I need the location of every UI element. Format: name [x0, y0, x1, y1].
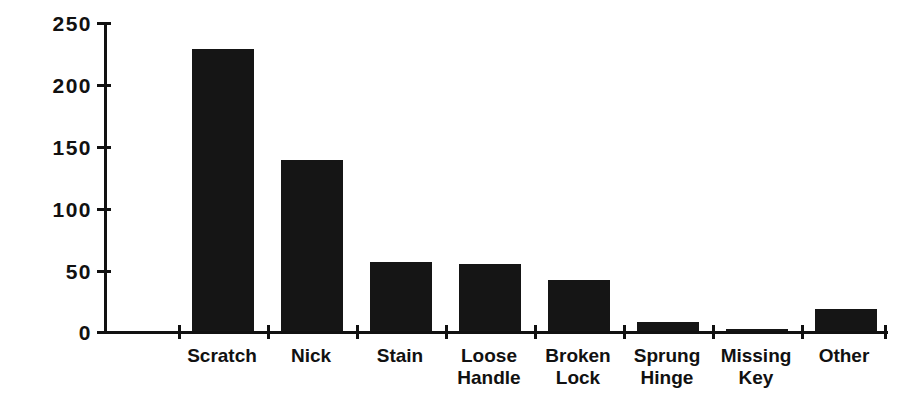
bar-other [815, 309, 877, 331]
bar-loose-handle [459, 264, 521, 331]
x-label-other: Other [785, 345, 903, 367]
bar-broken-lock [548, 280, 610, 331]
bar-scratch [192, 49, 254, 331]
bar-missing-key [726, 329, 788, 331]
bar-sprung-hinge [637, 322, 699, 331]
bar-chart: 250 200 150 100 50 0 Scratch Nick Stain … [0, 0, 914, 408]
bar-nick [281, 160, 343, 331]
bar-stain [370, 262, 432, 331]
